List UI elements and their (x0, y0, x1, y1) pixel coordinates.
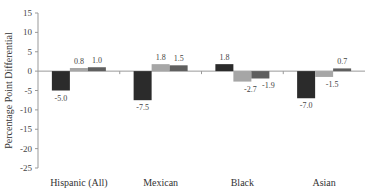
data-label: -1.5 (326, 80, 339, 89)
data-label: -5.0 (55, 94, 68, 103)
data-label: 1.0 (92, 56, 102, 65)
bar (88, 67, 106, 71)
bar (251, 71, 269, 78)
data-label: 0.8 (74, 57, 84, 66)
bar (233, 71, 251, 81)
bar (134, 71, 152, 100)
y-axis-title: Percentage Point Differential (3, 32, 14, 149)
data-label: -2.7 (244, 85, 257, 94)
category-label: Asian (312, 177, 335, 188)
data-label: 0.7 (337, 57, 347, 66)
data-label: -7.0 (300, 101, 313, 110)
data-label: -7.5 (136, 103, 149, 112)
data-label: 1.8 (156, 53, 166, 62)
y-tick-label: -25 (20, 163, 32, 173)
category-label: Black (231, 177, 254, 188)
y-tick-label: -10 (20, 105, 32, 115)
bar-chart: Percentage Point Differential151050-5-10… (0, 0, 370, 193)
y-tick-label: -20 (20, 144, 32, 154)
y-tick-label: -5 (25, 86, 33, 96)
y-tick-label: 10 (23, 27, 33, 37)
category-label: Hispanic (All) (50, 177, 108, 189)
data-label: -1.9 (262, 81, 275, 90)
data-label: 1.8 (219, 53, 229, 62)
bar (215, 64, 233, 71)
y-tick-label: 0 (28, 66, 33, 76)
bar (70, 68, 88, 71)
bar (170, 65, 188, 71)
category-label: Mexican (143, 177, 178, 188)
bar (315, 71, 333, 77)
bar (52, 71, 70, 90)
bar (297, 71, 315, 98)
bar (333, 68, 351, 71)
y-tick-label: 5 (28, 47, 33, 57)
data-label: 1.5 (174, 54, 184, 63)
y-tick-label: -15 (20, 124, 32, 134)
bar (152, 64, 170, 71)
y-tick-label: 15 (23, 8, 33, 18)
